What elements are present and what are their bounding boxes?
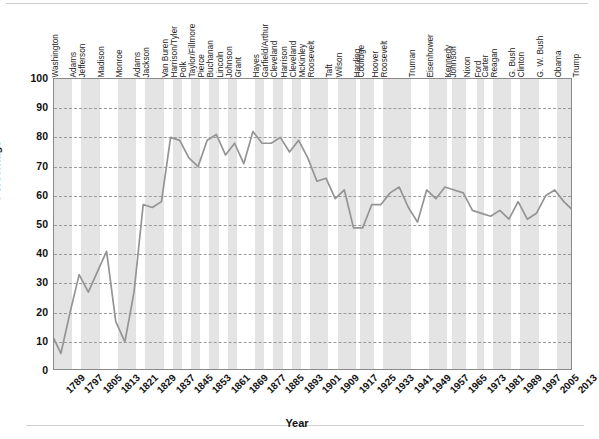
president-label: Jackson	[143, 48, 152, 78]
x-tick-label: 1853	[210, 372, 234, 396]
y-tick-label: 50	[36, 218, 48, 230]
x-tick-label: 1829	[155, 372, 179, 396]
x-tick-label: 1789	[64, 372, 88, 396]
president-label: Obama	[554, 51, 563, 78]
turnout-line-series	[54, 79, 571, 369]
president-label: Roosevelt	[381, 41, 390, 78]
x-tick-label: 1941	[411, 372, 435, 396]
y-tick-label: 90	[36, 101, 48, 113]
president-label: Lincoln	[216, 52, 225, 78]
top-divider	[6, 3, 588, 4]
president-label: Taft	[326, 65, 335, 78]
president-label: G. W. Bush	[536, 36, 545, 78]
president-label: Washington	[51, 34, 60, 78]
y-tick-label: 60	[36, 189, 48, 201]
x-tick-label: 1837	[173, 372, 197, 396]
x-tick-label: 1909	[338, 372, 362, 396]
x-tick-label: 1805	[100, 372, 124, 396]
y-tick-label: 10	[36, 335, 48, 347]
y-tick-label: 70	[36, 160, 48, 172]
x-tick-label: 1997	[539, 372, 563, 396]
president-label: Eisenhower	[426, 35, 435, 78]
plot-inner	[54, 79, 571, 369]
president-label: Wilson	[335, 53, 344, 78]
president-name-strip: WashingtonAdamsJeffersonMadisonMonroeAda…	[53, 10, 572, 78]
x-tick-label: 1949	[429, 372, 453, 396]
president-label: Buchanan	[207, 41, 216, 78]
plot-area	[53, 78, 572, 370]
x-tick-label: 1917	[356, 372, 380, 396]
x-tick-label: 1933	[393, 372, 417, 396]
x-tick-label: 1973	[484, 372, 508, 396]
x-tick-label: 1925	[374, 372, 398, 396]
x-tick-label: 1869	[246, 372, 270, 396]
x-tick-label: 1813	[118, 372, 142, 396]
x-tick-label: 2005	[557, 372, 581, 396]
president-label: Madison	[97, 47, 106, 78]
president-label: Cleveland	[271, 41, 280, 78]
president-label: Nixon	[463, 57, 472, 78]
x-tick-label: 1885	[283, 372, 307, 396]
x-tick-label: 1893	[301, 372, 325, 396]
x-tick-label: 2013	[576, 372, 599, 396]
president-label: Reagan	[490, 49, 499, 78]
x-tick-label: 1861	[228, 372, 252, 396]
y-tick-label: 0	[42, 364, 48, 376]
y-tick-label: 100	[30, 72, 48, 84]
president-label: Clinton	[518, 52, 527, 78]
x-axis-title: Year	[0, 417, 594, 429]
x-tick-label: 1989	[521, 372, 545, 396]
president-label: Johnson	[449, 47, 458, 78]
president-label: Trump	[573, 54, 582, 78]
president-label: Roosevelt	[307, 41, 316, 78]
y-tick-label: 40	[36, 247, 48, 259]
president-label: Grant	[234, 57, 243, 78]
x-tick-label: 1965	[466, 372, 490, 396]
x-tick-label: 1981	[502, 372, 526, 396]
president-label: Truman	[408, 50, 417, 78]
y-tick-label: 20	[36, 306, 48, 318]
y-axis-ticks: 1009080706050403020100	[8, 78, 48, 370]
president-label: Monroe	[115, 50, 124, 78]
y-tick-label: 80	[36, 130, 48, 142]
president-label: Coolidge	[358, 45, 367, 78]
y-tick-label: 30	[36, 276, 48, 288]
president-label: Harrison	[280, 47, 289, 78]
x-axis-ticks: 1789179718051813182118291837184518531861…	[53, 372, 572, 417]
x-tick-label: 1797	[82, 372, 106, 396]
y-axis-title: Percentage	[0, 141, 2, 200]
president-label: Jefferson	[79, 44, 88, 78]
